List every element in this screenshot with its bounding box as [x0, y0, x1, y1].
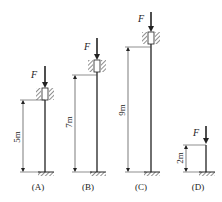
guide-block-a — [42, 88, 48, 100]
length-label-a: 5m — [12, 131, 22, 143]
column-b: F 7m (B) — [64, 38, 106, 192]
load-label-a: F — [30, 69, 38, 80]
fixed-base-icon-b — [90, 172, 106, 176]
load-label-b: F — [83, 41, 91, 52]
column-d: F 2m (D) — [175, 126, 215, 192]
guide-block-c — [148, 32, 154, 44]
column-a: F 5m (A) — [12, 66, 54, 192]
guide-block-b — [94, 60, 100, 72]
load-arrowhead-icon — [203, 138, 209, 144]
guide-hatch-left-a — [36, 88, 41, 100]
guide-hatch-right-a — [49, 88, 54, 100]
load-arrowhead-icon — [42, 82, 48, 88]
length-label-c: 9m — [117, 104, 127, 116]
column-c: F 9m (C) — [117, 12, 160, 192]
case-label-a: (A) — [32, 182, 45, 192]
load-arrowhead-icon — [148, 26, 154, 32]
load-arrowhead-icon — [94, 54, 100, 60]
case-label-b: (B) — [82, 182, 94, 192]
load-label-c: F — [137, 13, 145, 24]
length-label-d: 2m — [175, 152, 185, 164]
fixed-base-icon-c — [144, 172, 160, 176]
fixed-base-icon-d — [199, 172, 215, 176]
case-label-c: (C) — [135, 182, 147, 192]
length-label-b: 7m — [64, 116, 74, 128]
columns-diagram: F 5m (A) F 7m (B) — [0, 0, 222, 202]
case-label-d: (D) — [192, 182, 205, 192]
load-label-d: F — [192, 127, 200, 138]
fixed-base-icon-a — [38, 172, 54, 176]
